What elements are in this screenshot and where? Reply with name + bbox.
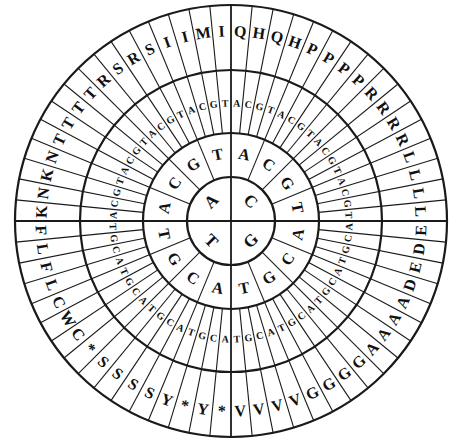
amino-acid-CAG: Q bbox=[269, 27, 285, 47]
amino-acid-CTA: L bbox=[400, 149, 420, 165]
third-base-GAG: G bbox=[339, 244, 352, 254]
second-base-GT: T bbox=[237, 278, 251, 297]
second-base-GA: A bbox=[288, 227, 307, 242]
second-base-TT: T bbox=[155, 227, 174, 241]
genetic-code-wheel: CGTA ACGTACGTACGTACGT ACGTACGTACGTACGTAC… bbox=[0, 0, 456, 440]
amino-acid-CAA: Q bbox=[234, 22, 247, 40]
amino-acid-TCA: S bbox=[142, 383, 157, 402]
amino-acid-GGC: G bbox=[334, 363, 355, 384]
second-base-CC: C bbox=[259, 154, 278, 175]
third-base-CTC: C bbox=[339, 187, 351, 197]
third-base-AAA: A bbox=[107, 211, 118, 220]
amino-acid-GCT: A bbox=[362, 338, 383, 358]
amino-acid-ATC: I bbox=[180, 28, 190, 46]
amino-acid-CTT: L bbox=[412, 206, 430, 217]
third-base-TAG: G bbox=[197, 329, 207, 342]
amino-acid-TTA: L bbox=[42, 277, 62, 293]
third-base-ATG: G bbox=[209, 98, 219, 110]
second-base-AC: C bbox=[164, 174, 185, 193]
amino-acid-CGA: R bbox=[362, 83, 383, 103]
third-base-TAA: A bbox=[221, 333, 230, 344]
third-base-GAT: T bbox=[336, 255, 349, 265]
second-base-AT: T bbox=[211, 145, 225, 164]
amino-acid-TGA: * bbox=[81, 340, 99, 357]
amino-acid-CTG: L bbox=[410, 187, 428, 200]
third-base-TTT: T bbox=[107, 223, 118, 231]
amino-acid-TAT: Y bbox=[159, 390, 176, 410]
amino-acid-CCA: P bbox=[304, 39, 320, 59]
third-base-TCG: G bbox=[154, 309, 167, 323]
amino-acid-GTA: V bbox=[287, 390, 304, 410]
third-base-CTG: G bbox=[342, 199, 354, 209]
third-base-TAT: T bbox=[186, 326, 196, 339]
amino-acid-ATG: M bbox=[194, 24, 211, 43]
third-base-TTG: G bbox=[108, 234, 120, 244]
amino-acid-TTC: F bbox=[37, 260, 56, 274]
second-base-TC: C bbox=[184, 267, 203, 288]
third-base-GAA: A bbox=[343, 222, 354, 231]
second-base-CG: G bbox=[277, 173, 298, 193]
third-base-CAG: G bbox=[255, 100, 265, 113]
amino-acid-AAG: K bbox=[37, 166, 57, 183]
third-base-AAC: C bbox=[108, 199, 120, 208]
first-base-C: C bbox=[240, 190, 262, 212]
first-base-G: G bbox=[239, 229, 262, 252]
amino-acid-TTT: F bbox=[32, 225, 49, 236]
third-base-CAA: A bbox=[233, 97, 242, 108]
third-base-GAC: C bbox=[342, 234, 354, 243]
second-base-GG: G bbox=[259, 267, 279, 288]
amino-acid-TGG: W bbox=[57, 307, 80, 329]
third-base-ATT: T bbox=[222, 97, 230, 108]
second-base-TA: A bbox=[210, 278, 225, 297]
amino-acid-TAG: * bbox=[179, 396, 191, 414]
amino-acid-ATA: I bbox=[161, 33, 173, 51]
amino-acid-TAA: * bbox=[217, 402, 226, 419]
third-base-AAG: G bbox=[110, 187, 123, 197]
amino-acid-GTT: V bbox=[234, 402, 247, 420]
amino-acid-TTG: L bbox=[34, 242, 52, 255]
third-base-TAC: C bbox=[209, 332, 218, 344]
amino-acid-GGA: G bbox=[348, 351, 369, 372]
amino-acid-CTC: L bbox=[406, 168, 425, 182]
second-base-AA: A bbox=[155, 200, 174, 215]
amino-acid-AAA: K bbox=[32, 204, 50, 218]
amino-acid-CAC: H bbox=[251, 24, 266, 43]
amino-acid-TAC: Y bbox=[196, 400, 210, 419]
first-base-T: T bbox=[200, 230, 222, 252]
second-base-GC: C bbox=[277, 249, 298, 268]
amino-acid-AGA: R bbox=[93, 70, 113, 91]
third-base-AAT: T bbox=[114, 176, 127, 186]
second-base-AG: G bbox=[183, 154, 203, 175]
third-base-GTC: C bbox=[255, 329, 265, 341]
amino-acid-GAT: D bbox=[400, 277, 420, 294]
first-base-A: A bbox=[200, 190, 223, 213]
amino-acid-GAC: D bbox=[410, 242, 429, 256]
amino-acid-TCC: S bbox=[125, 374, 141, 393]
third-base-CAC: C bbox=[244, 98, 253, 110]
second-base-CA: A bbox=[237, 145, 252, 164]
third-base-CTT: T bbox=[343, 212, 354, 220]
amino-acid-AGT: S bbox=[142, 40, 157, 59]
third-base-GTG: G bbox=[244, 332, 254, 344]
third-base-GCG: G bbox=[319, 285, 333, 298]
amino-acid-GTG: V bbox=[252, 400, 266, 419]
amino-acid-AAC: N bbox=[34, 186, 53, 200]
amino-acid-GAG: E bbox=[406, 260, 425, 274]
second-base-CT: T bbox=[288, 201, 307, 215]
amino-acid-ATT: I bbox=[218, 23, 225, 40]
second-base-TG: G bbox=[164, 249, 185, 269]
third-base-CAT: T bbox=[266, 104, 276, 117]
third-base-ATC: C bbox=[197, 100, 207, 112]
third-base-GTT: T bbox=[233, 333, 241, 344]
amino-acid-GTC: V bbox=[269, 396, 285, 415]
amino-acid-AAT: N bbox=[42, 148, 62, 165]
third-base-TTC: C bbox=[110, 245, 122, 255]
amino-acid-GAA: E bbox=[412, 225, 430, 236]
